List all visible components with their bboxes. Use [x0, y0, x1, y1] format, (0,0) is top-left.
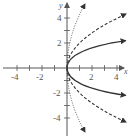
- graph: -4 -2 2 4 x 4 2 -2 -4 y: [0, 0, 128, 138]
- y-tick-label: -4: [53, 113, 61, 123]
- curve-dotted-upper: [67, 4, 85, 68]
- curve-dotted-lower: [67, 68, 85, 132]
- x-axis-label: x: [123, 67, 128, 76]
- y-axis-label: y: [58, 1, 63, 10]
- y-tick-label: 4: [57, 13, 62, 23]
- curve-dashed-upper: [67, 14, 126, 68]
- x-tick-label: 4: [114, 72, 119, 82]
- curve-solid-upper: [67, 41, 126, 68]
- x-tick-label: 2: [89, 72, 94, 82]
- x-tick-label: -4: [11, 72, 19, 82]
- y-tick-label: 2: [57, 38, 62, 48]
- x-tick-label: -2: [36, 72, 44, 82]
- y-tick-label: -2: [53, 88, 61, 98]
